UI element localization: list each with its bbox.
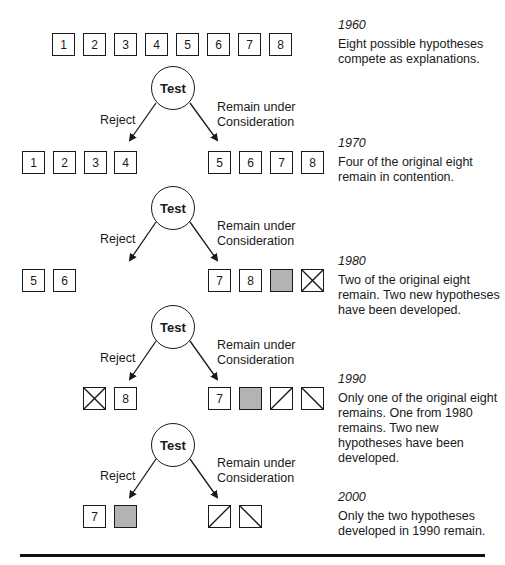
box-label: 6 — [247, 156, 254, 170]
hypothesis-box-5: 5 — [22, 269, 45, 292]
hypothesis-box-back-slash — [301, 387, 324, 410]
hypothesis-box-1: 1 — [52, 33, 75, 56]
hypothesis-box-2: 2 — [83, 33, 106, 56]
year-1960: 1960 — [338, 18, 366, 32]
remain-label-4: Remain underConsideration — [217, 456, 296, 486]
description-1970: Four of the original eight remain in con… — [338, 155, 503, 185]
hypothesis-box-7: 7 — [238, 33, 261, 56]
hypothesis-box-5: 5 — [208, 151, 231, 174]
cross-x-icon — [84, 388, 105, 409]
test-label: Test — [160, 201, 186, 216]
back-slash-icon — [240, 506, 261, 527]
hypothesis-box-6: 6 — [207, 33, 230, 56]
description-1960: Eight possible hypotheses compete as exp… — [338, 37, 503, 67]
hypothesis-box-forward-slash — [270, 387, 293, 410]
hypothesis-box-5: 5 — [176, 33, 199, 56]
remain-line1: Remain under — [217, 219, 296, 233]
test-label: Test — [160, 81, 186, 96]
description-1980: Two of the original eight remain. Two ne… — [338, 273, 503, 318]
hypothesis-box-grey — [239, 387, 262, 410]
hypothesis-box-7: 7 — [208, 387, 231, 410]
box-label: 1 — [60, 38, 67, 52]
hypothesis-box-grey — [114, 505, 137, 528]
hypothesis-box-8: 8 — [301, 151, 324, 174]
remain-line1: Remain under — [217, 456, 296, 470]
test-node-4: Test — [151, 423, 195, 467]
hypothesis-box-grey — [270, 269, 293, 292]
hypothesis-box-crossed — [301, 269, 324, 292]
bottom-rule — [20, 554, 485, 557]
reject-label-2: Reject — [100, 232, 135, 247]
hypothesis-box-8: 8 — [269, 33, 292, 56]
hypothesis-box-8: 8 — [239, 269, 262, 292]
test-node-2: Test — [151, 186, 195, 230]
remain-line1: Remain under — [217, 338, 296, 352]
hypothesis-box-back-slash — [239, 505, 262, 528]
back-slash-icon — [302, 388, 323, 409]
remain-label-1: Remain underConsideration — [217, 100, 296, 130]
test-label: Test — [160, 320, 186, 335]
box-label: 8 — [122, 392, 129, 406]
box-label: 2 — [61, 156, 68, 170]
forward-slash-icon — [271, 388, 292, 409]
box-label: 7 — [216, 392, 223, 406]
description-1990: Only one of the original eight remains. … — [338, 391, 503, 466]
box-label: 1 — [30, 156, 37, 170]
reject-label-3: Reject — [100, 351, 135, 366]
hypothesis-box-3: 3 — [114, 33, 137, 56]
reject-label-1: Reject — [100, 113, 135, 128]
test-node-1: Test — [151, 66, 195, 110]
box-label: 7 — [246, 38, 253, 52]
test-label: Test — [160, 438, 186, 453]
box-label: 5 — [216, 156, 223, 170]
hypothesis-box-7: 7 — [270, 151, 293, 174]
year-2000: 2000 — [338, 490, 366, 504]
box-label: 7 — [278, 156, 285, 170]
remain-label-2: Remain underConsideration — [217, 219, 296, 249]
hypothesis-box-crossed — [83, 387, 106, 410]
box-label: 4 — [122, 156, 129, 170]
box-label: 8 — [247, 274, 254, 288]
test-node-3: Test — [151, 305, 195, 349]
remain-line2: Consideration — [217, 234, 294, 248]
box-label: 8 — [277, 38, 284, 52]
remain-label-3: Remain underConsideration — [217, 338, 296, 368]
hypothesis-box-3: 3 — [84, 151, 107, 174]
box-label: 2 — [91, 38, 98, 52]
box-label: 4 — [153, 38, 160, 52]
reject-label-4: Reject — [100, 469, 135, 484]
hypothesis-box-8: 8 — [114, 387, 137, 410]
hypothesis-box-1: 1 — [22, 151, 45, 174]
year-1980: 1980 — [338, 254, 366, 268]
box-label: 3 — [122, 38, 129, 52]
box-label: 7 — [216, 274, 223, 288]
remain-line2: Consideration — [217, 471, 294, 485]
box-label: 5 — [184, 38, 191, 52]
hypothesis-box-4: 4 — [114, 151, 137, 174]
hypothesis-box-4: 4 — [145, 33, 168, 56]
hypothesis-box-forward-slash — [208, 505, 231, 528]
remain-line2: Consideration — [217, 353, 294, 367]
year-1970: 1970 — [338, 136, 366, 150]
box-label: 7 — [91, 510, 98, 524]
description-2000: Only the two hypotheses developed in 199… — [338, 509, 503, 539]
box-label: 8 — [309, 156, 316, 170]
hypothesis-box-7: 7 — [83, 505, 106, 528]
hypothesis-box-2: 2 — [53, 151, 76, 174]
remain-line2: Consideration — [217, 115, 294, 129]
year-1990: 1990 — [338, 372, 366, 386]
box-label: 3 — [92, 156, 99, 170]
box-label: 6 — [215, 38, 222, 52]
hypothesis-box-6: 6 — [53, 269, 76, 292]
remain-line1: Remain under — [217, 100, 296, 114]
hypothesis-box-6: 6 — [239, 151, 262, 174]
forward-slash-icon — [209, 506, 230, 527]
cross-x-icon — [302, 270, 323, 291]
box-label: 5 — [30, 274, 37, 288]
hypothesis-box-7: 7 — [208, 269, 231, 292]
box-label: 6 — [61, 274, 68, 288]
